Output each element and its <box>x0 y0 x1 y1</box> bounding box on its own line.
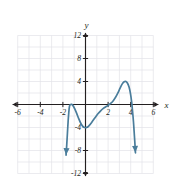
y-tick-label: 8 <box>77 54 81 63</box>
y-tick-label: 12 <box>73 31 81 40</box>
x-tick-label: -4 <box>37 108 44 117</box>
y-tick-label: -4 <box>75 123 82 132</box>
chart-figure: -6-4-2246-12-8-44812 x y <box>0 0 181 186</box>
polynomial-plot-svg: -6-4-2246-12-8-44812 x y <box>0 0 181 186</box>
x-tick-label: 6 <box>151 108 155 117</box>
x-tick-label: 2 <box>106 108 110 117</box>
y-tick-label: -8 <box>75 146 82 155</box>
x-tick-label: -6 <box>15 108 22 117</box>
y-axis-label: y <box>84 20 89 30</box>
y-tick-label: 4 <box>77 77 81 86</box>
x-axis-label: x <box>163 100 168 110</box>
x-tick-label: -2 <box>60 108 67 117</box>
y-tick-label: -12 <box>71 169 81 178</box>
